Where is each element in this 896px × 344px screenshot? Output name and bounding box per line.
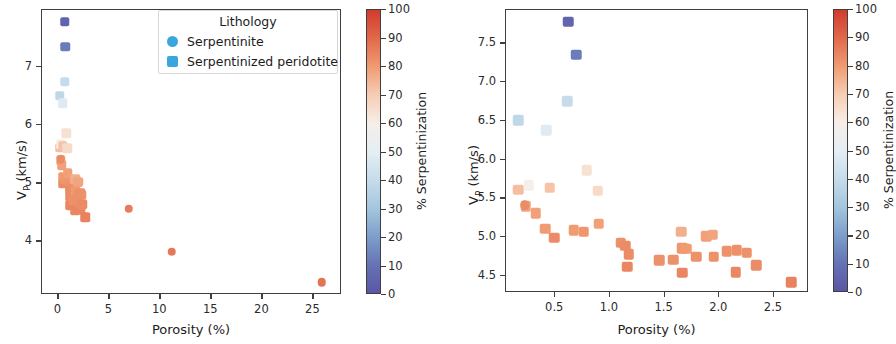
panel-left: 05101520254567Porosity (%)VP (km/s) Lith… bbox=[0, 0, 450, 344]
data-point-serpentinized-peridotite bbox=[709, 251, 720, 262]
colorbar-tick bbox=[381, 152, 386, 153]
x-tick-label: 25 bbox=[305, 302, 320, 316]
y-tick bbox=[36, 66, 41, 67]
x-tick bbox=[159, 294, 160, 299]
x-tick-label: 5 bbox=[105, 302, 112, 316]
colorbar-tick-label: 70 bbox=[855, 87, 870, 101]
x-tick bbox=[664, 292, 665, 297]
data-point-serpentinized-peridotite bbox=[578, 226, 589, 237]
x-tick-label: 10 bbox=[152, 302, 167, 316]
data-point-serpentinized-peridotite bbox=[530, 208, 541, 219]
legend-entry-serpentinized-peridotite: Serpentinized peridotite bbox=[167, 52, 338, 71]
data-point-serpentinized-peridotite bbox=[786, 277, 797, 288]
colorbar-tick-label: 80 bbox=[388, 59, 403, 73]
colorbar-tick-label: 20 bbox=[388, 230, 403, 244]
colorbar-tick bbox=[381, 9, 386, 10]
legend-entry-serpentinite: Serpentinite bbox=[167, 32, 264, 51]
x-tick bbox=[261, 294, 262, 299]
legend-marker-square-icon bbox=[167, 56, 178, 67]
colorbar-tick-label: 0 bbox=[388, 287, 395, 301]
y-axis-label: VP (km/s) bbox=[14, 140, 32, 200]
data-point-serpentinized-peridotite bbox=[545, 182, 556, 193]
x-tick bbox=[773, 292, 774, 297]
legend-title: Lithology bbox=[159, 14, 337, 29]
data-point-serpentinized-peridotite bbox=[60, 77, 70, 87]
data-point-serpentinite bbox=[317, 278, 326, 287]
data-point-serpentinized-peridotite bbox=[751, 260, 762, 271]
data-point-serpentinized-peridotite bbox=[524, 180, 535, 191]
colorbar-tick-label: 30 bbox=[388, 202, 403, 216]
colorbar-tick-label: 50 bbox=[855, 144, 870, 158]
colorbar-tick-label: 40 bbox=[855, 172, 870, 186]
x-tick-label: 1.0 bbox=[600, 300, 618, 314]
colorbar-tick-label: 90 bbox=[388, 31, 403, 45]
x-tick-label: 0 bbox=[54, 302, 61, 316]
data-point-serpentinized-peridotite bbox=[707, 230, 718, 241]
data-points-right bbox=[506, 10, 807, 291]
colorbar-gradient-left bbox=[367, 10, 380, 293]
colorbar-tick-label: 10 bbox=[855, 257, 870, 271]
panel-right: 0.51.01.52.02.54.55.05.56.06.57.07.5Poro… bbox=[450, 0, 889, 344]
x-tick-label: 2.0 bbox=[709, 300, 727, 314]
data-point-serpentinite bbox=[124, 205, 133, 214]
colorbar-title: % Serpentinization bbox=[881, 90, 896, 208]
x-tick bbox=[718, 292, 719, 297]
colorbar-tick bbox=[381, 237, 386, 238]
data-point-serpentinized-peridotite bbox=[77, 200, 87, 210]
data-point-serpentinized-peridotite bbox=[594, 219, 605, 230]
colorbar-right bbox=[833, 9, 848, 292]
y-tick bbox=[500, 197, 505, 198]
colorbar-gradient-right bbox=[834, 10, 847, 291]
colorbar-tick bbox=[848, 94, 853, 95]
data-point-serpentinite bbox=[167, 248, 176, 257]
data-point-serpentinized-peridotite bbox=[63, 144, 73, 154]
y-tick-label: 7.0 bbox=[478, 74, 496, 88]
y-tick-label: 4.5 bbox=[478, 268, 496, 282]
data-point-serpentinized-peridotite bbox=[593, 185, 604, 196]
legend-label-serpentinite: Serpentinite bbox=[187, 34, 264, 49]
data-point-serpentinized-peridotite bbox=[654, 255, 665, 266]
x-tick-label: 0.5 bbox=[545, 300, 563, 314]
x-tick bbox=[609, 292, 610, 297]
x-axis-label: Porosity (%) bbox=[152, 322, 230, 337]
data-point-serpentinized-peridotite bbox=[62, 129, 72, 139]
y-tick bbox=[500, 120, 505, 121]
data-point-serpentinized-peridotite bbox=[73, 177, 83, 187]
data-point-serpentinized-peridotite bbox=[61, 42, 71, 52]
colorbar-tick bbox=[381, 294, 386, 295]
y-tick bbox=[36, 124, 41, 125]
data-point-serpentinized-peridotite bbox=[513, 185, 524, 196]
data-point-serpentinized-peridotite bbox=[582, 165, 593, 176]
y-tick-label: 6 bbox=[25, 117, 32, 131]
x-tick bbox=[554, 292, 555, 297]
x-tick-label: 20 bbox=[254, 302, 269, 316]
x-tick bbox=[57, 294, 58, 299]
data-point-serpentinite bbox=[56, 155, 65, 164]
colorbar-tick bbox=[848, 151, 853, 152]
data-point-serpentinized-peridotite bbox=[513, 115, 524, 126]
y-axis-label: VP (km/s) bbox=[466, 145, 484, 205]
y-tick bbox=[36, 182, 41, 183]
colorbar-tick-label: 60 bbox=[855, 115, 870, 129]
y-tick bbox=[500, 81, 505, 82]
x-tick-label: 1.5 bbox=[654, 300, 672, 314]
data-point-serpentinized-peridotite bbox=[741, 247, 752, 258]
y-tick-label: 6.5 bbox=[478, 113, 496, 127]
colorbar-tick-label: 50 bbox=[388, 145, 403, 159]
data-point-serpentinized-peridotite bbox=[623, 249, 634, 260]
colorbar-tick-label: 30 bbox=[855, 200, 870, 214]
colorbar-tick bbox=[848, 179, 853, 180]
data-point-serpentinized-peridotite bbox=[622, 261, 633, 272]
x-tick bbox=[210, 294, 211, 299]
colorbar-tick bbox=[848, 66, 853, 67]
colorbar-tick-label: 40 bbox=[388, 173, 403, 187]
y-tick-label: 7 bbox=[25, 59, 32, 73]
colorbar-tick bbox=[381, 266, 386, 267]
y-tick-label: 4 bbox=[25, 233, 32, 247]
y-tick bbox=[500, 42, 505, 43]
colorbar-tick bbox=[848, 122, 853, 123]
colorbar-tick-label: 70 bbox=[388, 88, 403, 102]
data-point-serpentinized-peridotite bbox=[571, 50, 582, 61]
colorbar-title: % Serpentinization bbox=[414, 91, 429, 209]
y-tick bbox=[500, 236, 505, 237]
